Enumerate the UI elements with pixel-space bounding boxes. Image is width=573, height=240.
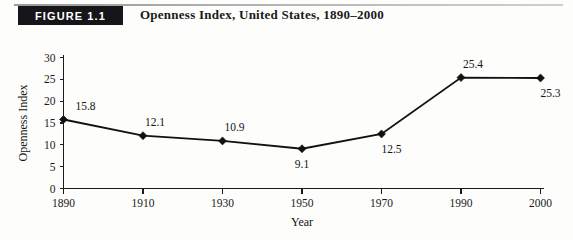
data-point-marker xyxy=(537,74,545,82)
data-value-label: 12.5 xyxy=(381,143,401,155)
y-tick-label: 30 xyxy=(44,52,56,64)
y-tick-label: 0 xyxy=(50,183,56,195)
figure-number-badge: FIGURE 1.1 xyxy=(18,6,123,25)
data-value-label: 15.8 xyxy=(75,100,95,112)
x-tick-label: 1950 xyxy=(291,197,314,209)
x-tick-label: 1970 xyxy=(370,197,393,209)
chart-plot-area: 051015202530 189019101930195019701990200… xyxy=(0,28,573,240)
y-tick-label: 20 xyxy=(44,95,56,107)
data-point-marker xyxy=(60,116,68,124)
y-tick-label: 5 xyxy=(50,161,56,173)
data-value-label: 25.3 xyxy=(540,87,560,99)
data-point-marker xyxy=(139,132,147,140)
x-axis-tick-labels: 1890191019301950197019902000 xyxy=(52,197,552,209)
data-value-label: 25.4 xyxy=(463,58,483,70)
data-value-label: 12.1 xyxy=(145,116,165,128)
x-axis-title: Year xyxy=(291,215,313,229)
y-axis-tick-labels: 051015202530 xyxy=(44,52,56,195)
data-value-label: 10.9 xyxy=(224,121,244,133)
figure-title: Openness Index, United States, 1890–2000 xyxy=(140,7,384,23)
data-point-markers xyxy=(60,74,545,153)
x-axis-ticks xyxy=(64,189,541,194)
openness-index-line xyxy=(64,78,541,149)
data-value-labels: 15.812.110.99.112.525.425.3 xyxy=(75,58,560,170)
data-point-marker xyxy=(298,145,306,153)
x-tick-label: 1890 xyxy=(52,197,75,209)
y-tick-label: 10 xyxy=(44,139,56,151)
x-tick-label: 1990 xyxy=(450,197,473,209)
data-point-marker xyxy=(219,137,227,145)
y-axis-title: Openness Index xyxy=(16,85,30,162)
y-tick-label: 15 xyxy=(44,117,56,129)
line-chart: 051015202530 189019101930195019701990200… xyxy=(0,28,573,240)
figure-container: FIGURE 1.1 Openness Index, United States… xyxy=(0,0,573,240)
y-tick-label: 25 xyxy=(44,73,56,85)
x-tick-label: 1930 xyxy=(211,197,234,209)
x-tick-label: 1910 xyxy=(132,197,155,209)
data-value-label: 9.1 xyxy=(295,158,310,170)
x-tick-label: 2000 xyxy=(529,197,552,209)
